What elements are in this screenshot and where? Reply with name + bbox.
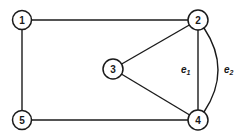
edge-e2	[204, 28, 218, 112]
graph-diagram: e1 e2 1 2 3 4 5	[0, 0, 248, 134]
node-3: 3	[103, 59, 123, 79]
edge-label-e2: e2	[224, 64, 234, 76]
node-2: 2	[188, 10, 208, 30]
node-label: 4	[195, 115, 201, 126]
edge-label-e1: e1	[181, 64, 191, 76]
node-label: 2	[195, 15, 201, 26]
node-1: 1	[13, 11, 32, 30]
edge-3-2	[113, 20, 198, 69]
edge-3-4	[113, 69, 198, 120]
node-4: 4	[188, 110, 208, 130]
node-label: 1	[19, 15, 25, 26]
node-5: 5	[13, 111, 32, 130]
node-label: 3	[110, 64, 116, 75]
node-label: 5	[19, 115, 25, 126]
